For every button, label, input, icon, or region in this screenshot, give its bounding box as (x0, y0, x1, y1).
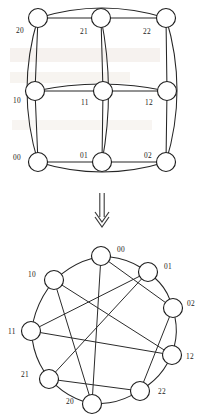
grid-node-00[interactable] (29, 153, 48, 172)
grid-node-20[interactable] (29, 9, 48, 28)
circular-ring-edge-01-02 (155, 278, 170, 299)
circular-node-label-22: 22 (158, 387, 166, 396)
grid-node-label-20: 20 (16, 26, 24, 35)
circular-node-label-10: 10 (28, 270, 36, 279)
circular-chord-11-12 (40, 333, 162, 354)
circular-node-label-20: 20 (66, 397, 74, 406)
grid-node-12[interactable] (158, 82, 177, 101)
circular-node-label-01: 01 (164, 262, 172, 271)
circular-node-label-11: 11 (8, 327, 16, 336)
grid-node-label-01: 01 (80, 151, 88, 160)
circular-ring-edge-21-11 (32, 340, 43, 371)
grid-edge-11-01 (102, 100, 103, 152)
circular-chord-10-12 (62, 285, 164, 350)
grid-node-02[interactable] (157, 153, 176, 172)
circular-node-22[interactable] (131, 382, 150, 401)
circular-node-20[interactable] (83, 395, 102, 414)
circular-node-10[interactable] (45, 271, 64, 290)
circular-node-label-00: 00 (117, 245, 125, 254)
circular-ring-edge-12-22 (148, 363, 168, 385)
grid-edge-12-02 (166, 100, 167, 152)
grid-node-label-22: 22 (143, 27, 151, 36)
circular-chord-21-22 (58, 380, 130, 390)
grid-node-label-12: 12 (145, 98, 153, 107)
circular-node-21[interactable] (40, 370, 59, 389)
grid-node-label-21: 21 (80, 27, 88, 36)
grid-node-label-10: 10 (13, 96, 21, 105)
grid-node-label-02: 02 (144, 151, 152, 160)
circular-ring-edge-02-12 (174, 317, 176, 346)
circular-node-label-02: 02 (187, 299, 195, 308)
circular-node-11[interactable] (22, 322, 41, 341)
circular-ring-edge-22-20 (101, 395, 131, 403)
grid-node-label-00: 00 (13, 153, 21, 162)
figure-container: 202122101112000102 000102122220211110 (0, 0, 202, 419)
grid-node-11[interactable] (94, 82, 113, 101)
graph-canvas: 202122101112000102 000102122220211110 (0, 0, 202, 419)
circular-graph: 000102122220211110 (8, 245, 195, 414)
grid-node-22[interactable] (157, 9, 176, 28)
circular-node-12[interactable] (163, 346, 182, 365)
grid-node-21[interactable] (92, 9, 111, 28)
circular-node-02[interactable] (164, 299, 183, 318)
circular-node-01[interactable] (139, 263, 158, 282)
grid-graph: 202122101112000102 (13, 8, 177, 172)
grid-node-10[interactable] (26, 82, 45, 101)
circular-node-00[interactable] (92, 247, 111, 266)
circular-node-label-12: 12 (186, 352, 194, 361)
circular-ring-edge-11-10 (33, 288, 48, 322)
transformation-arrow (95, 193, 109, 227)
circular-ring-edge-10-00 (61, 258, 91, 274)
circular-chord-10-20 (57, 289, 89, 395)
grid-node-label-11: 11 (81, 98, 89, 107)
grid-edge-22-12 (166, 27, 167, 81)
grid-node-01[interactable] (93, 153, 112, 172)
circular-node-label-21: 21 (21, 370, 29, 379)
